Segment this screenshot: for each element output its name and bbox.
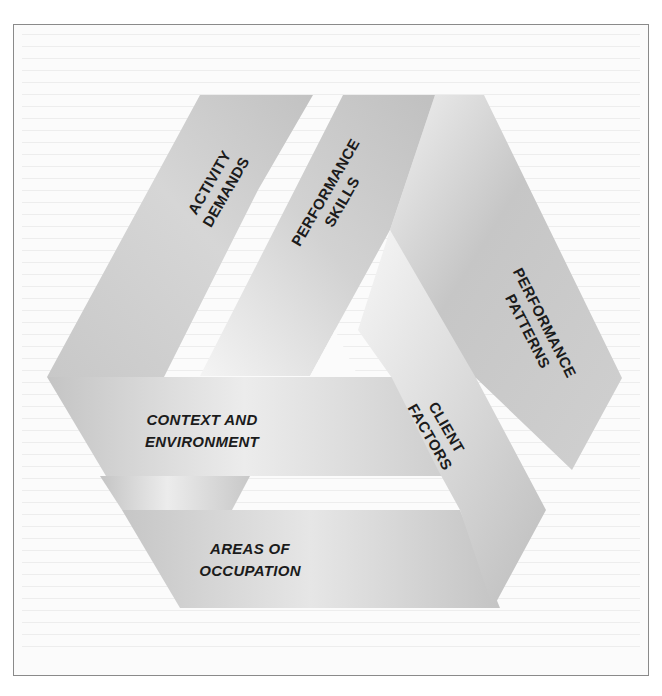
band-areas-of-occupation (122, 510, 500, 608)
svg-text:OCCUPATION: OCCUPATION (199, 562, 301, 579)
interlocking-triangle-diagram: ACTIVITY DEMANDS PERFORMANCE SKILLS PERF… (0, 0, 662, 696)
svg-text:AREAS OF: AREAS OF (209, 540, 290, 557)
svg-text:ENVIRONMENT: ENVIRONMENT (145, 433, 261, 450)
band-activity-demands-lower (100, 476, 250, 510)
cropped-caption-area (16, 686, 616, 696)
svg-text:CONTEXT AND: CONTEXT AND (146, 411, 257, 428)
